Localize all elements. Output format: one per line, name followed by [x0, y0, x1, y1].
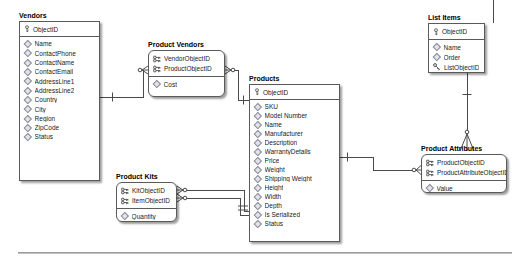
column-row[interactable]: Shipping Weight — [250, 174, 339, 183]
column-name: AddressLine1 — [35, 78, 75, 85]
attribute-icon — [24, 59, 32, 67]
key-column-row[interactable]: ListObjectID — [429, 62, 484, 72]
foreign-key-icon — [433, 63, 441, 71]
column-row[interactable]: Description — [250, 138, 339, 147]
column-name: Depth — [265, 202, 282, 209]
column-name: Quantity — [132, 213, 156, 220]
relationship-products-product-vendors[interactable] — [225, 66, 249, 105]
column-name: Region — [35, 115, 56, 122]
attribute-icon — [254, 121, 262, 129]
many-cardinality-circle — [138, 68, 142, 72]
table-title: Vendors — [19, 12, 47, 19]
attribute-icon — [254, 202, 262, 210]
column-row[interactable]: WarrantyDetails — [250, 147, 339, 156]
column-row[interactable]: Price — [250, 156, 339, 165]
column-name: ContactEmail — [35, 68, 74, 75]
column-name: Weight — [265, 166, 285, 173]
column-name: Height — [265, 184, 284, 191]
column-row[interactable]: Region — [20, 114, 99, 123]
column-name: Status — [265, 220, 283, 227]
relationship-list-items-product-attributes[interactable] — [460, 73, 474, 151]
bottom-separator-line — [18, 252, 512, 254]
column-name: ObjectID — [33, 26, 58, 33]
column-name: Country — [35, 96, 58, 103]
column-name: ZipCode — [35, 124, 60, 131]
key-column-row[interactable]: ObjectID — [429, 27, 484, 37]
key-column-row[interactable]: VendorObjectID — [149, 54, 224, 64]
relationship-vendors-product-vendors[interactable] — [100, 66, 148, 102]
column-row[interactable]: Name — [250, 120, 339, 129]
attribute-icon — [24, 114, 32, 122]
key-column-row[interactable]: ItemObjectID — [117, 196, 176, 206]
column-row[interactable]: SKU — [250, 102, 339, 111]
column-row[interactable]: Name — [429, 42, 484, 52]
column-row[interactable]: Cost — [149, 79, 224, 89]
composite-key-icon — [426, 169, 434, 177]
primary-key-icon — [254, 88, 260, 96]
column-row[interactable]: City — [20, 104, 99, 113]
many-cardinality-circle — [183, 196, 187, 200]
key-column-row[interactable]: ProductAttributeObjectID — [422, 168, 506, 178]
table-title: Product Kits — [116, 173, 158, 180]
column-row[interactable]: Model Number — [250, 111, 339, 120]
key-column-row[interactable]: ObjectID — [20, 25, 99, 34]
column-row[interactable]: Country — [20, 95, 99, 104]
attribute-icon — [24, 133, 32, 141]
key-column-row[interactable]: ProductObjectID — [422, 158, 506, 168]
attribute-icon — [254, 148, 262, 156]
attribute-icon — [254, 220, 262, 228]
column-row[interactable]: Manufacturer — [250, 129, 339, 138]
attribute-icon — [254, 103, 262, 111]
column-name: ListObjectID — [444, 64, 479, 71]
attribute-icon — [254, 193, 262, 201]
table-title: List Items — [428, 14, 461, 21]
column-name: KitObjectID — [132, 187, 165, 194]
column-name: Cost — [164, 81, 177, 88]
key-column-row[interactable]: ProductObjectID — [149, 64, 224, 74]
attribute-icon — [153, 80, 161, 88]
column-row[interactable]: Status — [250, 219, 339, 228]
column-row[interactable]: Quantity — [117, 211, 176, 221]
column-name: ObjectID — [442, 28, 467, 35]
column-row[interactable]: Weight — [250, 165, 339, 174]
column-row[interactable]: Value — [422, 183, 506, 193]
attribute-icon — [254, 112, 262, 120]
column-row[interactable]: AddressLine2 — [20, 86, 99, 95]
column-name: Name — [35, 40, 52, 47]
column-row[interactable]: Width — [250, 192, 339, 201]
column-row[interactable]: AddressLine1 — [20, 76, 99, 85]
column-name: ProductObjectID — [164, 65, 212, 72]
attribute-icon — [254, 157, 262, 165]
relationship-products-product-kits-item[interactable] — [177, 194, 249, 215]
column-row[interactable]: Status — [20, 132, 99, 141]
column-row[interactable]: Is Serialized — [250, 210, 339, 219]
column-name: ProductAttributeObjectID — [437, 169, 506, 176]
column-name: Status — [35, 133, 53, 140]
composite-key-icon — [153, 55, 161, 63]
column-row[interactable]: Height — [250, 183, 339, 192]
column-name: Name — [444, 44, 461, 51]
column-row[interactable]: Depth — [250, 201, 339, 210]
column-name: SKU — [265, 103, 278, 110]
column-name: WarrantyDetails — [265, 148, 311, 155]
column-name: ProductObjectID — [437, 159, 485, 166]
relationship-products-product-attributes[interactable] — [340, 153, 421, 175]
column-row[interactable]: ContactName — [20, 58, 99, 67]
column-row[interactable]: Order — [429, 52, 484, 62]
column-name: ObjectID — [263, 89, 288, 96]
key-column-row[interactable]: ObjectID — [250, 88, 339, 97]
column-name: Shipping Weight — [265, 175, 312, 182]
column-row[interactable]: ContactPhone — [20, 49, 99, 58]
column-row[interactable]: ContactEmail — [20, 67, 99, 76]
primary-key-icon — [24, 25, 30, 33]
key-column-row[interactable]: KitObjectID — [117, 186, 176, 196]
column-name: Width — [265, 193, 282, 200]
attribute-icon — [426, 184, 434, 192]
column-row[interactable]: ZipCode — [20, 123, 99, 132]
column-name: Description — [265, 139, 298, 146]
attribute-icon — [254, 139, 262, 147]
column-row[interactable]: Name — [20, 39, 99, 48]
column-name: Manufacturer — [265, 130, 303, 137]
attribute-icon — [24, 40, 32, 48]
attribute-icon — [24, 105, 32, 113]
